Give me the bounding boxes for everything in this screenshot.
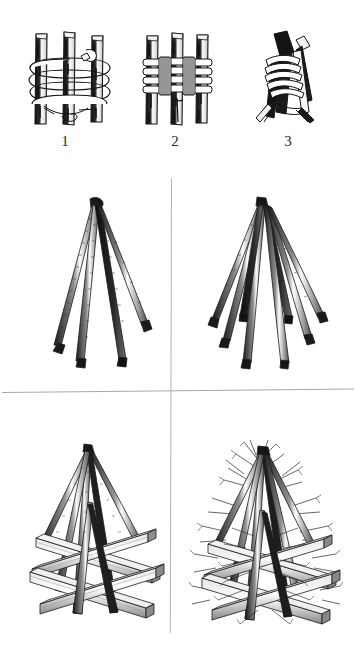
panel-tripod-eight-legs [200,195,335,370]
panel-pyre-with-log-cribbing [22,442,167,622]
step-number-1: 1 [45,134,85,149]
step-number-2: 2 [155,134,195,149]
panel-pyre-packed-with-brush [188,440,343,630]
vertical-rule [170,178,172,633]
figure-three-poles-open-lashing [24,28,116,128]
illustration-plate: 1 [0,0,355,645]
step-number-3: 3 [268,134,308,149]
figure-three-poles-frapping-turns [137,28,217,128]
panel-tripod-four-legs [40,195,155,370]
horizontal-rule [2,389,354,393]
figure-poles-splayed-tripod-head [252,26,326,128]
